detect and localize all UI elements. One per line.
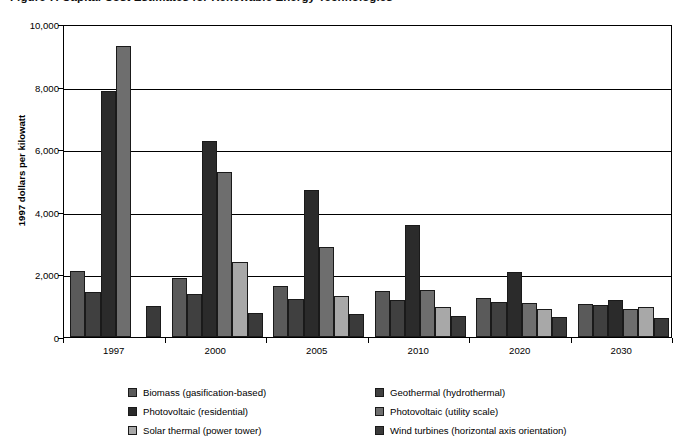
x-axis-tick-mark [165,338,166,343]
plot-area [63,25,672,338]
x-axis-group-label: 2030 [581,345,661,356]
bar [116,46,131,337]
bar [304,190,319,337]
bar [187,294,202,337]
legend-label: Biomass (gasification-based) [143,387,266,398]
bar [319,247,334,337]
y-axis-tick-label: 0 [0,333,59,344]
bar [334,296,349,337]
bar [375,291,390,337]
y-axis-tick-label: 10,000 [0,20,59,31]
bar [623,309,638,337]
legend-swatch-icon [128,426,137,435]
legend-label: Wind turbines (horizontal axis orientati… [390,425,567,436]
legend-label: Solar thermal (power tower) [143,425,261,436]
legend-swatch-icon [128,407,137,416]
bar [507,272,522,337]
bar [491,302,506,337]
bar [420,290,435,337]
bar [638,307,653,337]
bar [593,305,608,337]
legend-swatch-icon [375,388,384,397]
x-axis-tick-mark [63,338,64,343]
y-axis-tick-label: 8,000 [0,82,59,93]
bar [248,313,263,337]
legend-label: Geothermal (hydrothermal) [390,387,505,398]
y-axis-tick-mark [58,88,63,89]
y-axis-tick-mark [58,150,63,151]
x-axis-group-label: 2010 [378,345,458,356]
x-axis-tick-mark [469,338,470,343]
legend-item: Solar thermal (power tower) [128,425,375,436]
y-axis-tick-label: 2,000 [0,270,59,281]
bar [288,299,303,337]
legend-item: Wind turbines (horizontal axis orientati… [375,425,668,436]
gridline [64,89,671,90]
bar [537,309,552,337]
chart-title: Figure 7. Capital Cost Estimates for Ren… [10,0,670,5]
bar [232,262,247,337]
x-axis-tick-mark [266,338,267,343]
x-axis-group-label: 2005 [277,345,357,356]
bar [435,307,450,337]
x-axis-tick-mark [672,338,673,343]
y-axis-tick-label: 6,000 [0,145,59,156]
legend-label: Photovoltaic (utility scale) [390,406,498,417]
y-axis-tick-label: 4,000 [0,207,59,218]
bar [70,271,85,337]
bar [101,91,116,337]
x-axis-group-label: 1997 [74,345,154,356]
legend-swatch-icon [375,407,384,416]
x-axis-tick-mark [571,338,572,343]
legend-label: Photovoltaic (residential) [143,406,248,417]
gridline [64,276,671,277]
legend-item: Photovoltaic (residential) [128,406,375,417]
bar [273,286,288,337]
legend-item: Biomass (gasification-based) [128,387,375,398]
bar [146,306,161,337]
bar [451,316,466,337]
chart-legend: Biomass (gasification-based)Geothermal (… [128,383,668,440]
y-axis-title: 1997 dollars per kilowatt [16,76,27,266]
bar [202,141,217,337]
y-axis-tick-mark [58,25,63,26]
bar [654,318,669,337]
bar [349,314,364,337]
y-axis-tick-mark [58,213,63,214]
legend-swatch-icon [128,388,137,397]
bar [217,172,232,337]
bar [85,292,100,337]
bar [552,317,567,337]
x-axis-group-label: 2000 [175,345,255,356]
chart-figure: Figure 7. Capital Cost Estimates for Ren… [0,0,682,448]
legend-item: Geothermal (hydrothermal) [375,387,668,398]
bar [578,304,593,337]
legend-item: Photovoltaic (utility scale) [375,406,668,417]
x-axis-group-label: 2020 [480,345,560,356]
legend-swatch-icon [375,426,384,435]
bar [390,300,405,337]
bar [405,225,420,337]
bar [476,298,491,337]
y-axis-tick-mark [58,275,63,276]
gridline [64,214,671,215]
bar [172,278,187,337]
gridline [64,151,671,152]
bar [608,300,623,337]
x-axis-tick-mark [368,338,369,343]
bar [522,303,537,337]
